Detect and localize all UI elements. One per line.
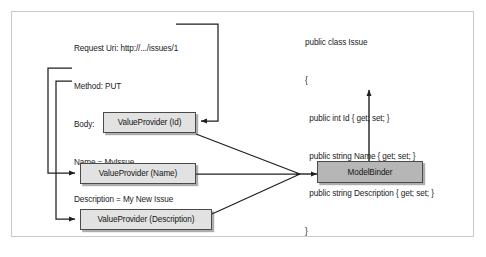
diagram-canvas: Request Uri: http://.../issues/1 Method:… [0,0,486,257]
code-line-4: public string Description { get; set; } [305,188,434,201]
code-line-0: public class Issue [305,37,434,50]
request-description-line: Description = My New Issue [74,194,178,207]
node-value-provider-name: ValueProvider (Name) [80,163,196,184]
node-model-binder: ModelBinder [317,161,423,183]
code-line-5: } [305,226,434,239]
issue-class-code: public class Issue { public int Id { get… [305,12,434,257]
code-line-2: public int Id { get; set; } [305,113,434,126]
node-value-provider-id: ValueProvider (Id) [103,112,196,133]
code-line-1: { [305,75,434,88]
request-uri-line: Request Uri: http://.../issues/1 [74,43,178,56]
request-method-line: Method: PUT [74,81,178,94]
node-value-provider-description: ValueProvider (Description) [80,209,212,230]
